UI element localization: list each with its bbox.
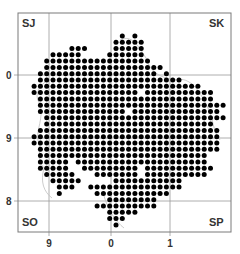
record-dot xyxy=(95,78,100,83)
record-dot xyxy=(183,109,188,114)
record-dot xyxy=(82,141,87,146)
record-dot xyxy=(51,172,56,177)
record-dot xyxy=(189,147,194,152)
record-dot xyxy=(132,210,137,215)
record-dot xyxy=(63,78,68,83)
record-dot xyxy=(44,166,49,171)
record-dot xyxy=(101,96,106,101)
record-dot xyxy=(145,78,150,83)
record-dot xyxy=(120,178,125,183)
record-dot xyxy=(57,109,62,114)
y-axis-labels: 098 xyxy=(6,70,12,207)
record-dot xyxy=(132,197,137,202)
record-dot xyxy=(120,159,125,164)
record-dot xyxy=(177,78,182,83)
record-dot xyxy=(69,46,74,51)
record-dot xyxy=(107,122,112,127)
record-dot xyxy=(145,147,150,152)
record-dot xyxy=(170,115,175,120)
record-dot xyxy=(95,122,100,127)
record-dot xyxy=(69,147,74,152)
record-dot xyxy=(170,90,175,95)
record-dot xyxy=(114,159,119,164)
record-dot xyxy=(139,159,144,164)
record-dot xyxy=(76,115,81,120)
record-dot xyxy=(132,122,137,127)
record-dot xyxy=(145,204,150,209)
record-dot xyxy=(139,65,144,70)
record-dot xyxy=(170,134,175,139)
record-dot xyxy=(151,71,156,76)
record-dot xyxy=(101,204,106,209)
record-dot xyxy=(221,103,226,108)
record-dot xyxy=(69,172,74,177)
record-dot xyxy=(170,185,175,190)
record-dot xyxy=(76,90,81,95)
record-dot xyxy=(32,84,37,89)
record-dot xyxy=(95,128,100,133)
record-dot xyxy=(202,159,207,164)
record-dot xyxy=(189,141,194,146)
record-dot xyxy=(195,147,200,152)
record-dot xyxy=(139,52,144,57)
record-dot xyxy=(177,172,182,177)
record-dot xyxy=(51,52,56,57)
record-dot xyxy=(139,46,144,51)
record-dot xyxy=(164,147,169,152)
record-dot xyxy=(88,134,93,139)
record-dot xyxy=(120,204,125,209)
record-dot xyxy=(51,115,56,120)
record-dot xyxy=(164,78,169,83)
record-dot xyxy=(88,103,93,108)
record-dot xyxy=(63,159,68,164)
record-dot xyxy=(132,109,137,114)
record-dot xyxy=(57,185,62,190)
record-dot xyxy=(51,78,56,83)
record-dot xyxy=(151,78,156,83)
record-dot xyxy=(95,204,100,209)
record-dot xyxy=(126,90,131,95)
record-dot xyxy=(132,33,137,38)
record-dot xyxy=(170,153,175,158)
record-dot xyxy=(107,115,112,120)
record-dot xyxy=(69,178,74,183)
record-dot xyxy=(63,141,68,146)
record-dot xyxy=(69,115,74,120)
record-dot xyxy=(88,90,93,95)
record-dot xyxy=(63,59,68,64)
record-dot xyxy=(170,84,175,89)
record-dot xyxy=(126,128,131,133)
record-dot xyxy=(126,141,131,146)
record-dot xyxy=(101,78,106,83)
record-dot xyxy=(114,172,119,177)
record-dot xyxy=(69,185,74,190)
record-dot xyxy=(189,166,194,171)
record-dot xyxy=(158,109,163,114)
record-dot xyxy=(107,103,112,108)
record-dot xyxy=(95,185,100,190)
record-dot xyxy=(183,153,188,158)
record-dot xyxy=(132,103,137,108)
record-dot xyxy=(76,59,81,64)
record-dot xyxy=(195,153,200,158)
record-dot xyxy=(88,84,93,89)
record-dot xyxy=(114,59,119,64)
record-dot xyxy=(202,128,207,133)
record-dot xyxy=(51,122,56,127)
record-dot xyxy=(69,122,74,127)
record-dot xyxy=(51,141,56,146)
record-dot xyxy=(57,153,62,158)
record-dot xyxy=(69,59,74,64)
record-dot xyxy=(177,147,182,152)
record-dot xyxy=(177,128,182,133)
record-dot xyxy=(114,109,119,114)
record-dot xyxy=(189,134,194,139)
record-dot xyxy=(88,185,93,190)
record-dot xyxy=(95,59,100,64)
record-dot xyxy=(151,172,156,177)
record-dot xyxy=(38,153,43,158)
x-axis-label: 0 xyxy=(108,238,114,249)
record-dot xyxy=(183,128,188,133)
record-dot xyxy=(120,52,125,57)
record-dot xyxy=(69,78,74,83)
